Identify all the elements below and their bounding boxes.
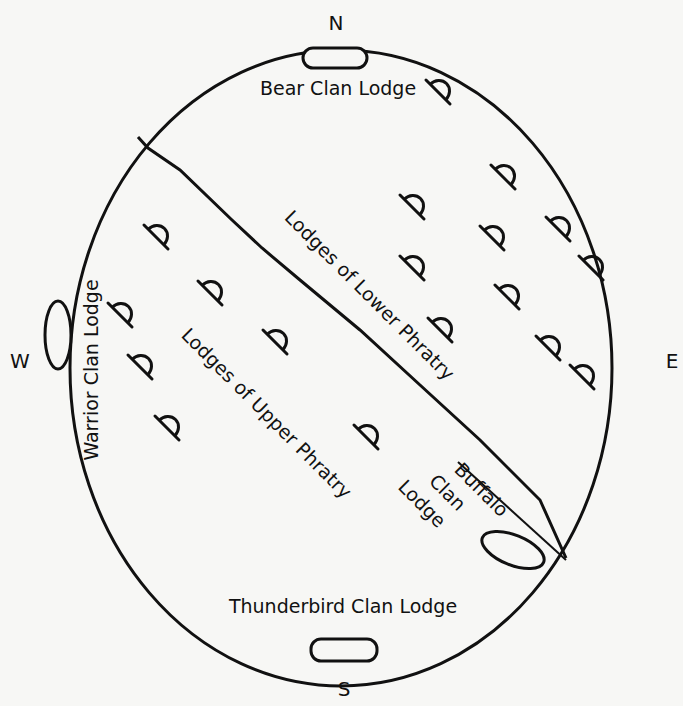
lodge-icon	[428, 309, 461, 342]
compass-south: S	[338, 677, 351, 701]
lodge-icon	[546, 208, 579, 241]
thunderbird-clan-lodge-shape	[311, 639, 377, 661]
compass-north: N	[329, 11, 344, 35]
bear-clan-label: Bear Clan Lodge	[260, 77, 416, 99]
warrior-clan-label: Warrior Clan Lodge	[80, 279, 102, 460]
camp-circle-diagram: N S E W Bear Clan Lodge Thunderbird Clan…	[0, 0, 683, 706]
bear-clan-lodge-shape	[303, 48, 367, 68]
lodge-icon	[426, 71, 459, 104]
warrior-clan-lodge-shape	[45, 301, 71, 369]
lodge-icon	[491, 156, 524, 189]
lodge-icon	[354, 416, 387, 449]
upper-phratry-label: Lodges of Upper Phratry	[177, 324, 356, 503]
lodge-icon	[198, 272, 231, 305]
compass-east: E	[666, 349, 679, 373]
buffalo-clan-lodge-shape	[477, 524, 549, 577]
compass-west: W	[10, 349, 30, 373]
lodge-icon	[400, 247, 433, 280]
lodge-icon	[536, 327, 569, 360]
thunderbird-clan-label: Thunderbird Clan Lodge	[228, 595, 457, 617]
lodge-icon	[144, 216, 177, 249]
lodge-icon	[400, 186, 433, 219]
lodge-icon	[108, 294, 141, 327]
lodge-icon	[128, 346, 161, 379]
upper-phratry-lodges	[108, 216, 387, 449]
lodge-icon	[155, 407, 188, 440]
lodge-icon	[480, 217, 513, 250]
lodge-icon	[263, 321, 296, 354]
lower-phratry-label: Lodges of Lower Phratry	[281, 206, 459, 384]
lodge-icon	[495, 276, 528, 309]
lodge-icon	[570, 356, 603, 389]
lodge-icon	[579, 247, 612, 280]
